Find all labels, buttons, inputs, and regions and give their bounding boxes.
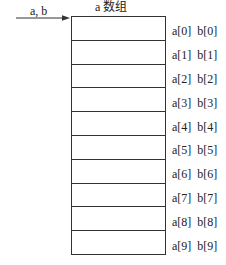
a-element-label: a[0]	[172, 24, 191, 38]
a-element-label: a[3]	[172, 96, 191, 110]
arrow-right-icon	[16, 14, 70, 22]
b-element-label: b[5]	[197, 143, 217, 157]
element-label-7: a[7] b[7]	[172, 183, 217, 207]
array-cell-2	[72, 65, 165, 89]
array-cell-9	[72, 231, 165, 254]
b-element-label: b[9]	[197, 239, 217, 253]
element-label-3: a[3] b[3]	[172, 88, 217, 112]
array-title: a 数组	[95, 0, 127, 14]
array-cell-1	[72, 41, 165, 65]
array-cell-8	[72, 207, 165, 231]
b-element-label: b[4]	[197, 120, 217, 134]
a-element-label: a[6]	[172, 167, 191, 181]
b-element-label: b[6]	[197, 167, 217, 181]
b-element-label: b[8]	[197, 215, 217, 229]
b-element-label: b[7]	[197, 191, 217, 205]
a-element-label: a[8]	[172, 215, 191, 229]
element-label-4: a[4] b[4]	[172, 112, 217, 136]
array-cell-3	[72, 88, 165, 112]
array-box	[71, 16, 166, 255]
b-element-label: b[0]	[197, 24, 217, 38]
element-label-6: a[6] b[6]	[172, 159, 217, 183]
a-element-label: a[1]	[172, 48, 191, 62]
array-cell-4	[72, 112, 165, 136]
b-element-label: b[2]	[197, 72, 217, 86]
a-element-label: a[5]	[172, 143, 191, 157]
a-element-label: a[4]	[172, 120, 191, 134]
array-cell-7	[72, 184, 165, 208]
a-element-label: a[9]	[172, 239, 191, 253]
element-label-1: a[1] b[1]	[172, 40, 217, 64]
b-element-label: b[1]	[197, 48, 217, 62]
b-element-label: b[3]	[197, 96, 217, 110]
element-label-5: a[5] b[5]	[172, 136, 217, 160]
element-labels: a[0] b[0] a[1] b[1] a[2] b[2] a[3] b[3] …	[172, 16, 217, 255]
array-cell-0	[72, 17, 165, 41]
a-element-label: a[2]	[172, 72, 191, 86]
element-label-9: a[9] b[9]	[172, 231, 217, 255]
element-label-2: a[2] b[2]	[172, 64, 217, 88]
array-cell-6	[72, 160, 165, 184]
a-element-label: a[7]	[172, 191, 191, 205]
element-label-0: a[0] b[0]	[172, 16, 217, 40]
element-label-8: a[8] b[8]	[172, 207, 217, 231]
array-cell-5	[72, 136, 165, 160]
